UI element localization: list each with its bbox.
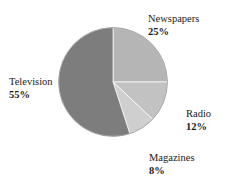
slice-label-newspapers: Newspapers 25% bbox=[148, 13, 199, 38]
pie-chart bbox=[58, 27, 168, 137]
slice-label-television-name: Television bbox=[9, 76, 53, 89]
slice-label-newspapers-name: Newspapers bbox=[148, 13, 199, 26]
slice-label-television: Television 55% bbox=[9, 76, 53, 101]
slice-label-radio: Radio 12% bbox=[186, 108, 211, 133]
slice-label-television-pct: 55% bbox=[9, 89, 53, 102]
slice-label-magazines-pct: 8% bbox=[149, 165, 194, 178]
slice-label-magazines-name: Magazines bbox=[149, 152, 194, 165]
slice-label-radio-pct: 12% bbox=[186, 121, 211, 134]
pie-chart-svg bbox=[58, 27, 168, 137]
pie-slice-group bbox=[59, 28, 168, 137]
slice-label-radio-name: Radio bbox=[186, 108, 211, 121]
slice-label-magazines: Magazines 8% bbox=[149, 152, 194, 177]
slice-label-newspapers-pct: 25% bbox=[148, 26, 199, 39]
chart-title bbox=[0, 0, 236, 3]
